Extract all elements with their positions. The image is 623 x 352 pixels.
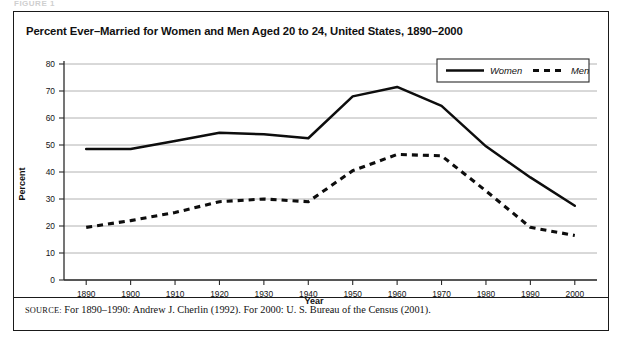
series-line-women xyxy=(86,87,575,206)
y-tick-label: 60 xyxy=(46,113,56,123)
y-tick-label: 30 xyxy=(46,194,56,204)
figure-frame: Percent Ever–Married for Women and Men A… xyxy=(13,11,609,331)
legend-label-women: Women xyxy=(490,65,522,76)
source-prefix: SOURCE: xyxy=(25,306,62,315)
y-axis-ticks-group: 01020304050607080 xyxy=(46,59,64,285)
figure-number-label: FIGURE 1 xyxy=(14,0,55,8)
y-tick-label: 0 xyxy=(50,275,55,285)
source-divider xyxy=(14,297,608,298)
y-tick-label: 50 xyxy=(46,140,56,150)
y-tick-label: 10 xyxy=(46,248,56,258)
line-chart: 01020304050607080 1890190019101920193019… xyxy=(14,54,608,308)
y-axis-title: Percent xyxy=(17,167,27,200)
y-tick-label: 80 xyxy=(46,59,56,69)
chart-legend[interactable]: Women Men xyxy=(437,59,589,82)
chart-plot-area: 01020304050607080 1890190019101920193019… xyxy=(14,54,608,308)
figure-title: Percent Ever–Married for Women and Men A… xyxy=(26,25,463,37)
y-tick-label: 70 xyxy=(46,86,56,96)
y-tick-label: 40 xyxy=(46,167,56,177)
legend-label-men: Men xyxy=(571,65,589,76)
y-tick-label: 20 xyxy=(46,221,56,231)
source-text: For 1890–1990: Andrew J. Cherlin (1992).… xyxy=(64,304,430,315)
source-note: SOURCE: For 1890–1990: Andrew J. Cherlin… xyxy=(25,304,431,315)
series-line-men xyxy=(86,154,575,235)
gridlines-group xyxy=(64,64,597,280)
